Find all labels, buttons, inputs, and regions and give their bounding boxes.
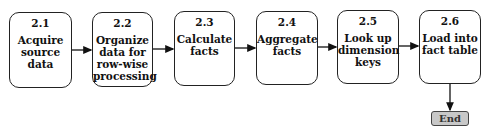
step-label-line: data [10,58,71,70]
step-2-3-box: 2.3 Calculate facts [174,11,235,86]
step-label-line: row-wise [93,58,152,70]
step-number: 2.1 [10,17,71,30]
step-2-2-box: 2.2 Organize data for row-wise processin… [92,12,153,87]
step-label-line: keys [338,56,398,68]
step-number: 2.6 [420,15,480,28]
step-label-line: Load into [420,32,480,44]
step-label-line: dimension [338,44,398,56]
step-number: 2.2 [93,17,152,30]
step-label-line: fact table [420,44,480,56]
step-label-line: Organize [93,34,152,46]
step-number: 2.4 [257,16,317,29]
step-label-line: Look up [338,32,398,44]
step-number: 2.5 [338,15,398,28]
step-label-line: processing [93,70,152,82]
step-2-1-box: 2.1 Acquire source data [9,12,72,88]
step-2-5-box: 2.5 Look up dimension keys [337,10,399,84]
step-label-line: facts [257,45,317,57]
step-label-line: Aggregate [257,33,317,45]
step-2-6-box: 2.6 Load into fact table [419,10,481,84]
step-number: 2.3 [175,16,234,29]
step-2-4-box: 2.4 Aggregate facts [256,11,318,85]
step-label-line: data for [93,46,152,58]
step-label-line: facts [175,45,234,57]
step-label-line: Calculate [175,33,234,45]
step-label-line: Acquire [10,34,71,46]
step-label-line: source [10,46,71,58]
connector-arrows [0,0,490,134]
end-terminator: End [431,111,469,126]
